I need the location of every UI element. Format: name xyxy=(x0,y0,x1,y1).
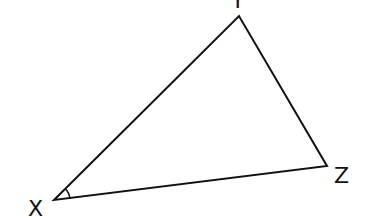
vertex-label-z: Z xyxy=(334,163,349,188)
triangle-diagram: X Y Z xyxy=(0,0,369,218)
angle-arc-x xyxy=(65,189,70,199)
vertex-label-x: X xyxy=(28,196,43,218)
vertex-label-y: Y xyxy=(230,0,245,13)
triangle-xyz xyxy=(54,16,327,200)
